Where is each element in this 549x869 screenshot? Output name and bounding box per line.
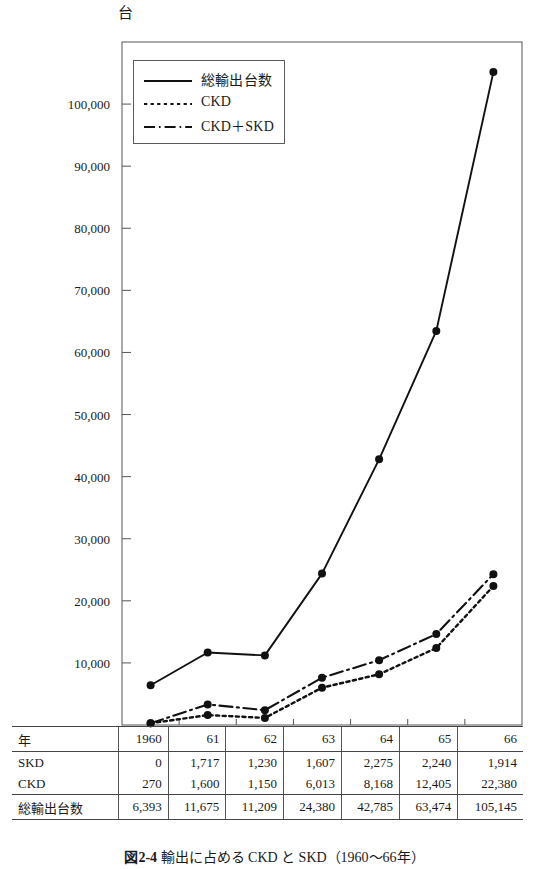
data-point-marker (204, 711, 212, 719)
cell-total-1: 11,675 (168, 795, 226, 820)
cell-skd-6: 1,914 (458, 752, 523, 774)
legend-label-ckd: CKD (201, 94, 231, 110)
table-row-year: 年 1960 61 62 63 64 65 66 (12, 727, 523, 752)
cell-ckd-6: 22,380 (458, 773, 523, 795)
cell-year-2: 62 (226, 727, 284, 752)
figure-caption-number: 図2-4 (124, 850, 157, 865)
cell-year-3: 63 (283, 727, 341, 752)
data-point-marker (147, 681, 155, 689)
cell-total-4: 42,785 (342, 795, 400, 820)
cell-total-6: 105,145 (458, 795, 523, 820)
data-point-marker (204, 700, 212, 708)
cell-ckd-4: 8,168 (342, 773, 400, 795)
data-table: 年 1960 61 62 63 64 65 66 SKD 0 1,717 1,2… (12, 726, 523, 820)
cell-year-1: 61 (168, 727, 226, 752)
legend-swatch-dotted-icon (142, 96, 194, 108)
series-line-solid (151, 72, 494, 685)
cell-skd-3: 1,607 (283, 752, 341, 774)
cell-skd-4: 2,275 (342, 752, 400, 774)
cell-ckd-0: 270 (118, 773, 168, 795)
data-point-marker (375, 670, 383, 678)
data-point-marker (261, 706, 269, 714)
cell-total-0: 6,393 (118, 795, 168, 820)
row-header-skd: SKD (12, 752, 118, 774)
legend-item-ckd: CKD (142, 90, 276, 113)
legend-swatch-solid-icon (142, 73, 194, 85)
data-point-marker (261, 651, 269, 659)
data-point-marker (432, 327, 440, 335)
y-axis-tick-label: 40,000 (74, 470, 110, 485)
y-axis-tick-label: 90,000 (74, 159, 110, 174)
figure-caption: 図2-4 輸出に占める CKD と SKD（1960～66年） (0, 846, 549, 866)
table-row-total: 総輸出台数 6,393 11,675 11,209 24,380 42,785 … (12, 795, 523, 820)
data-point-marker (204, 649, 212, 657)
data-point-marker (318, 570, 326, 578)
data-point-marker (318, 674, 326, 682)
row-header-year: 年 (12, 727, 118, 752)
data-point-marker (489, 68, 497, 76)
data-point-marker (489, 582, 497, 590)
data-point-marker (318, 684, 326, 692)
row-header-total: 総輸出台数 (12, 795, 118, 820)
data-point-marker (489, 570, 497, 578)
cell-total-5: 63,474 (400, 795, 458, 820)
legend-item-total: 総輸出台数 (142, 67, 276, 90)
cell-skd-5: 2,240 (400, 752, 458, 774)
cell-year-6: 66 (458, 727, 523, 752)
table-row-skd: SKD 0 1,717 1,230 1,607 2,275 2,240 1,91… (12, 752, 523, 774)
legend-swatch-dashdot-icon (142, 119, 194, 131)
chart-legend: 総輸出台数 CKD CKD＋SKD (133, 60, 285, 144)
cell-ckd-5: 12,405 (400, 773, 458, 795)
cell-ckd-3: 6,013 (283, 773, 341, 795)
y-axis-tick-label: 50,000 (74, 408, 110, 423)
cell-total-3: 24,380 (283, 795, 341, 820)
figure-caption-text: 輸出に占める CKD と SKD（1960～66年） (161, 850, 425, 865)
cell-year-0: 1960 (118, 727, 168, 752)
cell-skd-2: 1,230 (226, 752, 284, 774)
legend-item-ckd-skd: CKD＋SKD (142, 113, 276, 136)
legend-label-ckd-skd: CKD＋SKD (201, 115, 274, 135)
cell-year-5: 65 (400, 727, 458, 752)
cell-ckd-2: 1,150 (226, 773, 284, 795)
y-axis-tick-label: 80,000 (74, 221, 110, 236)
y-axis-tick-label: 70,000 (74, 283, 110, 298)
figure-container: 台 10,00020,00030,00040,00050,00060,00070… (0, 0, 549, 869)
legend-label-total: 総輸出台数 (201, 69, 272, 89)
cell-ckd-1: 1,600 (168, 773, 226, 795)
table-row-ckd: CKD 270 1,600 1,150 6,013 8,168 12,405 2… (12, 773, 523, 795)
y-axis-tick-label: 20,000 (74, 594, 110, 609)
data-point-marker (261, 714, 269, 722)
data-point-marker (375, 656, 383, 664)
y-axis-tick-label: 30,000 (74, 532, 110, 547)
y-axis-tick-label: 10,000 (74, 656, 110, 671)
cell-year-4: 64 (342, 727, 400, 752)
y-axis-tick-label: 100,000 (68, 97, 110, 112)
series-line-dashdot (151, 574, 494, 723)
cell-skd-1: 1,717 (168, 752, 226, 774)
data-point-marker (432, 644, 440, 652)
series-line-dotted (151, 586, 494, 723)
data-point-marker (432, 630, 440, 638)
data-point-marker (375, 455, 383, 463)
cell-skd-0: 0 (118, 752, 168, 774)
y-axis-tick-label: 60,000 (74, 345, 110, 360)
row-header-ckd: CKD (12, 773, 118, 795)
cell-total-2: 11,209 (226, 795, 284, 820)
